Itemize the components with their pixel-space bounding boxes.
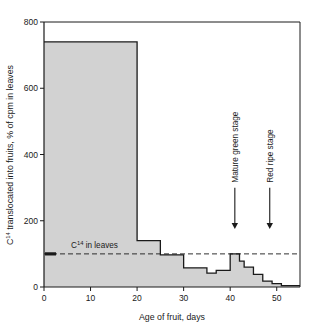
y-tick-label: 800 xyxy=(24,17,38,27)
x-tick-label: 20 xyxy=(132,293,142,303)
x-tick-label: 50 xyxy=(272,293,282,303)
x-tick-label: 40 xyxy=(225,293,235,303)
chart-canvas: 0200400600800 01020304050 Age of fruit, … xyxy=(0,0,314,327)
y-tick-label: 600 xyxy=(24,83,38,93)
y-axis-title: C14 translocated into fruits, % of cpm i… xyxy=(5,64,15,245)
x-axis-title: Age of fruit, days xyxy=(139,312,206,322)
y-axis-ticks: 0200400600800 xyxy=(24,17,44,292)
x-tick-label: 30 xyxy=(179,293,189,303)
reference-label-rest: in leaves xyxy=(83,241,118,250)
x-tick-label: 10 xyxy=(86,293,96,303)
reference-line-left-marker xyxy=(45,252,56,255)
x-axis-ticks: 01020304050 xyxy=(42,287,282,303)
y-tick-label: 200 xyxy=(24,216,38,226)
figure-container: 0200400600800 01020304050 Age of fruit, … xyxy=(0,0,314,327)
annotation-label-mature-green-stage: Mature green stage xyxy=(231,111,240,182)
y-tick-label: 0 xyxy=(33,282,38,292)
annotation-label-red-ripe-stage: Red ripe stage xyxy=(266,129,275,183)
y-axis-title-rest: translocated into fruits, % of cpm in le… xyxy=(5,64,15,232)
x-tick-label: 0 xyxy=(42,293,47,303)
y-tick-label: 400 xyxy=(24,150,38,160)
